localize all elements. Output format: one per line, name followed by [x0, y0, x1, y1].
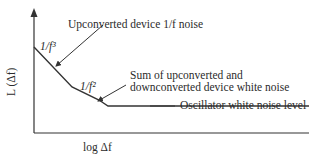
sum-label-line2: downconverted device white noise [130, 81, 289, 94]
x-axis-label: log Δf [83, 141, 112, 154]
slope-f3-label: 1/f³ [40, 40, 56, 53]
slope-f2-label: 1/f² [80, 80, 96, 93]
y-axis-label: L (Δf) [5, 68, 17, 96]
upconverted-noise-label: Upconverted device 1/f noise [68, 18, 203, 31]
sum-arrow [98, 85, 126, 101]
y-axis-arrow-icon [31, 8, 38, 17]
upconverted-arrow [56, 25, 103, 66]
white-noise-label: Oscillator white noise level [180, 99, 306, 112]
